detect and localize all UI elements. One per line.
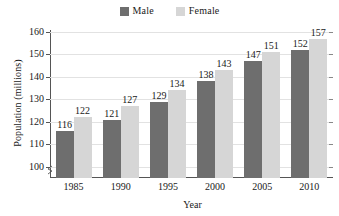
- bar-female-2005: 151: [262, 52, 280, 178]
- bar-female-1995: 134: [168, 90, 186, 178]
- y-axis-tick-label: 100: [29, 162, 44, 172]
- bar-value-label: 151: [264, 41, 279, 51]
- bar-value-label: 116: [57, 120, 72, 130]
- y-axis-tick-label: 160: [29, 27, 44, 37]
- bar-group: 116122: [52, 25, 96, 178]
- x-axis-tick-label: 2005: [240, 181, 284, 195]
- legend-item-female: Female: [176, 6, 220, 16]
- x-axis-tick-label: 2000: [193, 181, 237, 195]
- x-axis-tick-label: 1985: [52, 181, 96, 195]
- bar-group: 129134: [146, 25, 190, 178]
- bar-value-label: 129: [151, 91, 166, 101]
- population-bar-chart: Male Female Population (millions) 100110…: [0, 0, 339, 216]
- bar-value-label: 127: [122, 95, 137, 105]
- plot-area: 100110120130140150160 116122121127129134…: [50, 25, 333, 178]
- bar-value-label: 157: [311, 28, 326, 38]
- bar-female-2000: 143: [215, 70, 233, 178]
- bar-female-1985: 122: [74, 117, 92, 178]
- bar-value-label: 143: [217, 59, 232, 69]
- bar-value-label: 122: [75, 106, 90, 116]
- y-axis-tick-label: 120: [29, 117, 44, 127]
- bar-value-label: 121: [104, 109, 119, 119]
- legend-label-male: Male: [133, 6, 154, 16]
- x-axis-title: Year: [50, 200, 335, 210]
- bar-male-2010: 152: [291, 50, 309, 178]
- bar-group: 147151: [240, 25, 284, 178]
- bar-value-label: 138: [199, 70, 214, 80]
- bar-group: 121127: [99, 25, 143, 178]
- bar-group: 152157: [287, 25, 331, 178]
- y-axis-tick-label: 130: [29, 94, 44, 104]
- y-axis-title: Population (millions): [13, 23, 23, 183]
- y-axis-tick-label: 110: [29, 139, 44, 149]
- bar-male-1985: 116: [56, 131, 74, 178]
- bar-female-2010: 157: [309, 39, 327, 179]
- legend-label-female: Female: [189, 6, 220, 16]
- chart-legend: Male Female: [0, 3, 339, 19]
- bar-male-1990: 121: [103, 120, 121, 179]
- bar-male-2000: 138: [197, 81, 215, 178]
- legend-swatch-male: [120, 7, 129, 16]
- x-axis-tick-label: 2010: [287, 181, 331, 195]
- legend-item-male: Male: [120, 6, 154, 16]
- x-axis-tick-label: 1995: [146, 181, 190, 195]
- bar-value-label: 147: [246, 50, 261, 60]
- bar-female-1990: 127: [121, 106, 139, 178]
- x-axis-tick-labels: 198519901995200020052010: [50, 181, 333, 195]
- bar-groups: 116122121127129134138143147151152157: [50, 25, 333, 178]
- bar-group: 138143: [193, 25, 237, 178]
- bar-male-1995: 129: [150, 102, 168, 179]
- legend-swatch-female: [176, 7, 185, 16]
- y-axis-tick-label: 150: [29, 49, 44, 59]
- bar-male-2005: 147: [244, 61, 262, 178]
- bar-value-label: 152: [293, 39, 308, 49]
- x-axis-tick-label: 1990: [99, 181, 143, 195]
- bar-value-label: 134: [169, 79, 184, 89]
- y-axis-tick-label: 140: [29, 72, 44, 82]
